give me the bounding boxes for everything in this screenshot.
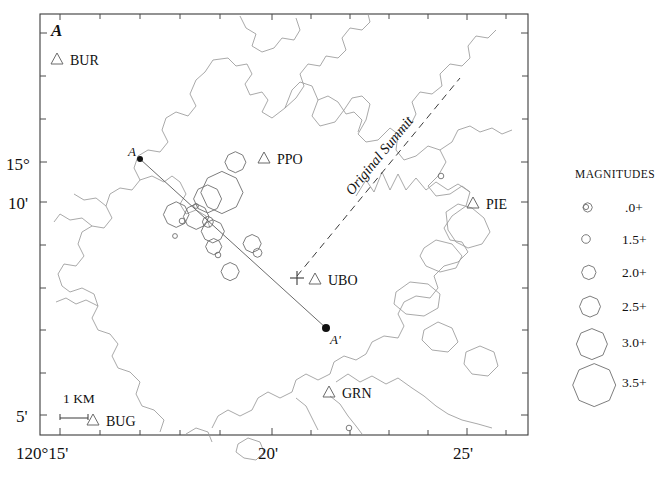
station-UBO: UBO	[309, 273, 358, 288]
profile-label-aprime: A'	[329, 332, 341, 347]
panel-label: A	[50, 21, 62, 40]
station-BUR: BUR	[51, 53, 99, 68]
station-label: PIE	[486, 197, 507, 212]
station-BUG: BUG	[87, 414, 136, 429]
map-frame	[40, 14, 528, 435]
legend-symbols	[573, 203, 616, 407]
legend-title: MAGNITUDES	[575, 168, 655, 180]
triangle-icon	[309, 273, 321, 284]
triangle-icon	[323, 386, 335, 397]
triangle-icon	[467, 197, 479, 208]
earthquake-map-figure: A A' Original Summit BUR PPO	[0, 0, 659, 480]
station-label: GRN	[342, 386, 372, 401]
profile-endpoint-a	[137, 156, 143, 162]
triangle-icon	[87, 414, 99, 425]
legend-label: .0+	[625, 200, 643, 215]
axis-ticks	[40, 14, 528, 435]
legend-label: 3.0+	[622, 335, 647, 350]
map-canvas: A A' Original Summit BUR PPO	[0, 0, 659, 480]
station-label: BUR	[70, 53, 99, 68]
profile-line-a-aprime: A A'	[127, 144, 341, 347]
epicenter-symbols	[163, 152, 443, 431]
legend-label: 3.5+	[622, 375, 647, 390]
y-tick-label: 10'	[8, 194, 28, 213]
x-tick-label: 20'	[258, 444, 278, 463]
original-summit-label: Original Summit	[342, 112, 417, 198]
x-tick-label: 25'	[453, 444, 473, 463]
station-label: UBO	[328, 273, 358, 288]
profile-label-a: A	[127, 144, 136, 159]
station-label: PPO	[277, 152, 303, 167]
y-tick-label: 15°	[6, 155, 30, 174]
magnitude-legend: MAGNITUDES .0+ 1.5+ 2.0+	[573, 168, 655, 407]
x-tick-label: 120°15'	[16, 444, 68, 463]
x-axis-labels: 120°15' 20' 25'	[16, 444, 473, 463]
legend-label: 1.5+	[622, 232, 647, 247]
topographic-contours	[54, 14, 512, 460]
scale-bar: 1 KM	[60, 391, 95, 420]
triangle-icon	[51, 53, 63, 64]
y-tick-label: 5'	[16, 407, 28, 426]
original-summit-annotation: Original Summit	[290, 78, 460, 285]
station-GRN: GRN	[323, 386, 372, 401]
station-PIE: PIE	[467, 197, 507, 212]
y-axis-labels: 15° 10' 5'	[6, 155, 30, 426]
station-label: BUG	[106, 414, 136, 429]
station-PPO: PPO	[258, 152, 303, 167]
legend-labels: .0+ 1.5+ 2.0+ 2.5+ 3.0+ 3.5+	[622, 200, 647, 390]
scale-bar-label: 1 KM	[63, 391, 95, 406]
profile-endpoint-aprime	[322, 324, 330, 332]
legend-label: 2.5+	[622, 299, 647, 314]
legend-label: 2.0+	[622, 265, 647, 280]
triangle-icon	[258, 152, 270, 163]
original-summit-cross-icon	[290, 271, 304, 285]
